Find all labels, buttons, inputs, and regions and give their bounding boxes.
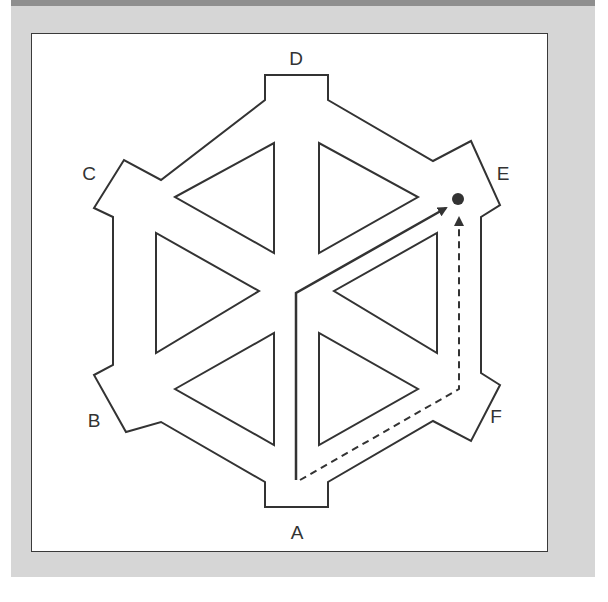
triangle-top-left: [175, 143, 274, 253]
triangle-right: [334, 233, 437, 353]
label-c: C: [82, 163, 96, 184]
triangle-bottom-right: [319, 333, 418, 445]
triangle-left: [156, 233, 259, 353]
target-dot: [452, 193, 464, 205]
label-d: D: [289, 48, 303, 69]
label-b: B: [88, 410, 101, 431]
label-a: A: [291, 522, 304, 543]
dashed-path-arrow: [300, 218, 459, 480]
label-e: E: [497, 163, 510, 184]
hexagon-maze-diagram: D C E B F A: [0, 0, 608, 602]
triangle-bottom-left: [175, 333, 274, 445]
triangle-top-right: [319, 143, 418, 253]
label-f: F: [490, 406, 502, 427]
